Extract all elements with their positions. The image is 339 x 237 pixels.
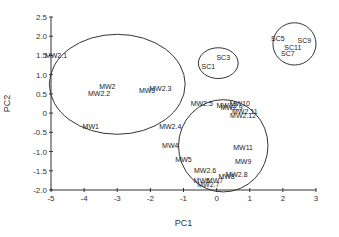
cluster-ellipses (49, 23, 316, 192)
y-tick-label: -1.5 (33, 167, 47, 176)
point-label: MW2.3 (149, 85, 171, 92)
x-tick-label: -3 (114, 194, 122, 203)
point-label: MW2.7 (197, 181, 219, 188)
point-label: MW2 (99, 83, 115, 90)
point-label: MW2.6 (194, 167, 216, 174)
x-tick-label: 0 (214, 194, 219, 203)
y-ticks: -2.0-1.5-1.0-0.500.51.01.52.02.5 (33, 13, 53, 195)
x-tick-label: -2 (147, 194, 155, 203)
point-label: MW2.12 (230, 112, 256, 119)
y-tick-label: 0 (43, 109, 48, 118)
x-axis-title: PC1 (175, 218, 193, 228)
x-tick-label: -5 (47, 194, 55, 203)
y-tick-label: 2.5 (36, 13, 48, 22)
point-label: SC1 (202, 63, 216, 70)
y-tick-label: -2.0 (33, 186, 47, 195)
x-tick-label: 2 (281, 194, 286, 203)
y-axis-title: PC2 (2, 95, 12, 113)
y-tick-label: -1.0 (33, 148, 47, 157)
point-label: MW1 (83, 123, 99, 130)
x-tick-label: -1 (180, 194, 188, 203)
x-tick-label: -4 (81, 194, 89, 203)
point-label: MW2.4 (159, 123, 181, 130)
point-label: MW2.1 (45, 52, 67, 59)
axes (51, 17, 316, 190)
y-tick-label: -0.5 (33, 128, 47, 137)
x-tick-label: 3 (314, 194, 319, 203)
point-label: MW5 (175, 156, 191, 163)
point-label: SC7 (281, 50, 295, 57)
point-label: SC3 (216, 54, 230, 61)
point-label: MW4 (162, 142, 178, 149)
point-label: SC5 (271, 35, 285, 42)
y-tick-label: 2.0 (36, 32, 48, 41)
pca-scatter-chart: -5-4-3-2-10123 -2.0-1.5-1.0-0.500.51.01.… (0, 0, 339, 237)
y-tick-label: 1.0 (36, 71, 48, 80)
point-label: SC9 (298, 37, 312, 44)
point-label: MW11 (233, 144, 253, 151)
x-tick-label: 1 (248, 194, 253, 203)
point-label: MW9 (235, 158, 251, 165)
point-label: MW2.2 (88, 90, 110, 97)
point-label: MW2.5 (191, 100, 213, 107)
point-labels: MW2.1MW2MW2.2MW3MW2.3MW1SC3SC1SC5SC9SC11… (45, 35, 311, 188)
y-tick-label: 0.5 (36, 90, 48, 99)
